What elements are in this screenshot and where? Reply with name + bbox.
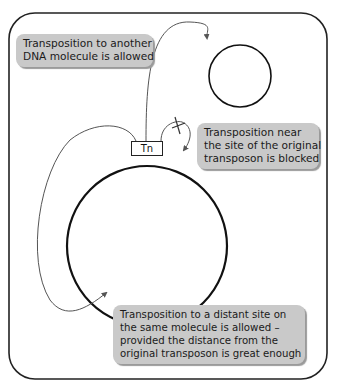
callout-distant-site: Transposition to a distant site on the s… <box>113 305 305 364</box>
arrow-distant-site <box>37 126 136 311</box>
callout-near-site: Transposition near the site of the origi… <box>197 123 319 169</box>
callout-line: original transposon is great enough <box>120 347 298 360</box>
callout-line: DNA molecule is allowed <box>23 50 146 63</box>
arrow-near-site-blocked <box>161 122 190 150</box>
callout-line: Transposition to another <box>23 37 146 50</box>
blocked-x-icon <box>172 117 185 134</box>
callout-line: the same molecule is allowed – <box>120 321 298 334</box>
callout-another-molecule: Transposition to another DNA molecule is… <box>16 34 153 67</box>
callout-line: Transposition near <box>204 126 312 139</box>
callout-line: Transposition to a distant site on <box>120 308 298 321</box>
transposon-label: Tn <box>131 141 163 156</box>
callout-line: the site of the original <box>204 139 312 152</box>
target-molecule-circle <box>209 45 271 107</box>
callout-line: transposon is blocked <box>204 152 312 165</box>
callout-line: provided the distance from the <box>120 334 298 347</box>
original-molecule-circle <box>67 166 227 326</box>
